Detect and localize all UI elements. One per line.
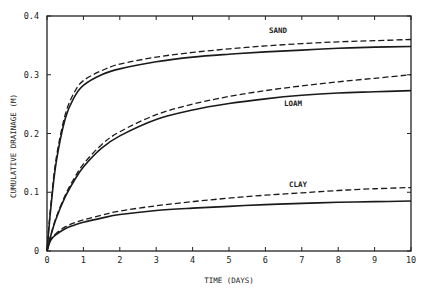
x-axis-title: TIME (DAYS) (204, 276, 254, 285)
label-loam: LOAM (284, 99, 303, 108)
series-loam-dashed (47, 75, 411, 251)
label-clay: CLAY (289, 180, 308, 189)
x-tick-label: 2 (117, 255, 122, 265)
x-tick-label: 0 (44, 255, 49, 265)
plot-frame (47, 16, 411, 251)
x-tick-label: 9 (372, 255, 377, 265)
series-loam-solid (47, 91, 411, 251)
series-clay-dashed (47, 188, 411, 251)
drainage-chart: 01234567891000.10.20.30.4 SAND LOAM CLAY… (0, 0, 423, 290)
label-sand: SAND (269, 26, 288, 35)
x-tick-label: 4 (190, 255, 195, 265)
y-tick-label: 0 (34, 246, 39, 256)
x-tick-label: 3 (154, 255, 159, 265)
x-tick-label: 7 (299, 255, 304, 265)
series-lines (47, 40, 411, 252)
y-tick-label: 0.4 (24, 11, 39, 21)
x-tick-label: 1 (81, 255, 86, 265)
y-tick-label: 0.3 (24, 70, 39, 80)
series-clay-solid (47, 201, 411, 251)
y-tick-label: 0.1 (24, 187, 39, 197)
x-tick-label: 5 (226, 255, 231, 265)
x-tick-label: 10 (406, 255, 416, 265)
x-tick-label: 8 (336, 255, 341, 265)
plot-border (47, 16, 411, 251)
y-tick-label: 0.2 (24, 129, 39, 139)
x-tick-label: 6 (263, 255, 268, 265)
y-axis-title: CUMULATIVE DRAINAGE (M) (9, 94, 18, 198)
